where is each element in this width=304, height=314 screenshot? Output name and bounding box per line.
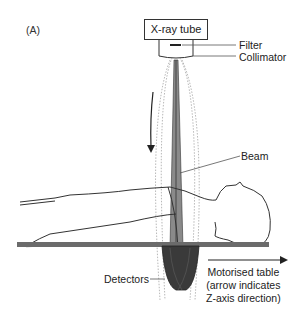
beam-label: Beam [241,150,268,162]
collimator-label: Collimator [239,51,286,63]
rotation-arrow [151,92,153,148]
table-caption: Motorised table (arrow indicates Z-axis … [206,266,281,305]
table-caption-line2: (arrow indicates [206,279,281,292]
filter-label: Filter [239,39,262,51]
collimator-housing [159,40,193,58]
table-caption-line1: Motorised table [206,266,281,279]
filter-bar [170,44,181,46]
panel-label: (A) [26,24,40,36]
patient-outline [20,182,270,248]
table-caption-line3: Z-axis direction) [206,292,281,305]
detector-array [162,246,199,290]
x-ray-beam [170,60,183,248]
x-ray-tube-label: X-ray tube [144,19,208,40]
motorised-table [17,242,269,247]
detectors-label: Detectors [104,273,149,285]
